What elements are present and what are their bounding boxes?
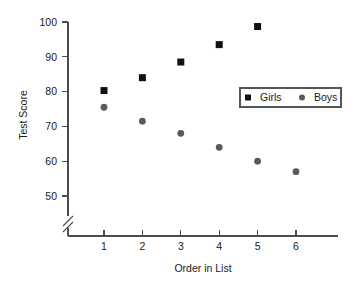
- data-point-boys: [254, 158, 261, 165]
- x-tick-label: 3: [178, 240, 184, 252]
- x-tick-label: 5: [255, 240, 261, 252]
- legend-label-girls: Girls: [260, 91, 282, 103]
- data-point-boys: [216, 144, 223, 151]
- data-point-girls: [216, 41, 223, 48]
- x-tick-label: 1: [101, 240, 107, 252]
- data-point-boys: [293, 168, 300, 175]
- data-point-girls: [139, 74, 146, 81]
- chart-legend: GirlsBoys: [240, 88, 341, 107]
- legend-marker-boys: [299, 95, 305, 101]
- y-tick-label: 90: [45, 51, 57, 63]
- y-tick-label: 80: [45, 85, 57, 97]
- x-axis-title: Order in List: [174, 262, 231, 274]
- data-point-boys: [101, 104, 108, 111]
- x-tick-label: 4: [216, 240, 222, 252]
- data-point-boys: [139, 118, 146, 125]
- chart-canvas: 5060708090100 123456 Test Score Order in…: [0, 0, 360, 286]
- y-tick-label: 100: [39, 16, 57, 28]
- y-tick-label: 60: [45, 155, 57, 167]
- x-tick-label: 6: [293, 240, 299, 252]
- legend-label-boys: Boys: [314, 91, 337, 103]
- x-tick-label-group: 123456: [101, 240, 299, 252]
- y-tick-group: [62, 22, 68, 196]
- legend-marker-girls: [245, 95, 251, 101]
- data-point-girls: [101, 87, 108, 94]
- data-point-girls: [177, 59, 184, 66]
- x-axis: 123456: [68, 230, 338, 252]
- data-point-girls: [254, 23, 261, 30]
- x-tick-group: [104, 230, 296, 236]
- y-tick-label: 50: [45, 190, 57, 202]
- x-tick-label: 2: [139, 240, 145, 252]
- y-axis-title: Test Score: [17, 90, 29, 140]
- y-tick-label-group: 5060708090100: [39, 16, 57, 202]
- scatter-chart: 5060708090100 123456 Test Score Order in…: [0, 0, 360, 286]
- y-tick-label: 70: [45, 120, 57, 132]
- y-axis: 5060708090100: [39, 16, 73, 236]
- data-point-boys: [177, 130, 184, 137]
